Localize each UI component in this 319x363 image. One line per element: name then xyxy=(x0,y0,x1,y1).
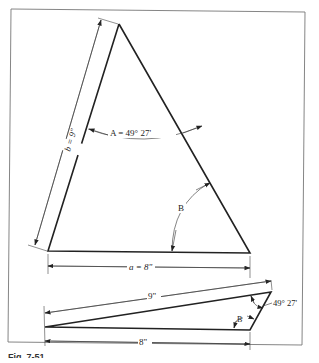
angle-b-label: B xyxy=(178,203,184,213)
angle-49-27-label: 49° 27' xyxy=(273,298,298,308)
side-a-label: a = 8" xyxy=(129,262,153,272)
angle-a-label: A = 49° 27' xyxy=(110,128,151,138)
triangle-diagram: A = 49° 27' b = 9" B a = 8" 9" 8" 49° 27… xyxy=(0,0,319,363)
base-8in-label: 8" xyxy=(139,337,148,347)
bottom-angle-b-label: B xyxy=(237,315,242,324)
hypotenuse-9in-label: 9" xyxy=(148,291,157,301)
